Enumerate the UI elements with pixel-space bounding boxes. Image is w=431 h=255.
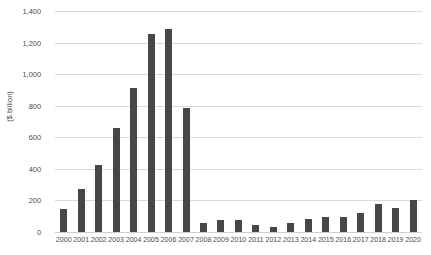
y-tick-label: 1,000 (0, 70, 41, 79)
y-tick-label: 1,200 (0, 39, 41, 48)
bar-slot (317, 11, 334, 232)
x-tick-label: 2010 (230, 236, 247, 244)
gridline (55, 232, 422, 233)
bar-slot (125, 11, 142, 232)
bar (357, 213, 364, 232)
x-tick-label: 2008 (195, 236, 212, 244)
x-tick-label: 2000 (55, 236, 72, 244)
bar (340, 217, 347, 232)
bar-slot (247, 11, 264, 232)
x-tick-label: 2014 (300, 236, 317, 244)
bar-slot (142, 11, 159, 232)
bar-slot (265, 11, 282, 232)
x-tick-label: 2002 (90, 236, 107, 244)
bar (78, 189, 85, 232)
y-tick-label: 400 (0, 165, 41, 174)
bar-slot (72, 11, 89, 232)
bar (200, 223, 207, 232)
bar (410, 200, 417, 232)
x-tick-label: 2016 (335, 236, 352, 244)
y-tick-label: 0 (0, 228, 41, 237)
x-tick-label: 2015 (317, 236, 334, 244)
bar (235, 220, 242, 232)
bar-slot (352, 11, 369, 232)
y-tick-label: 600 (0, 133, 41, 142)
x-tick-label: 2018 (369, 236, 386, 244)
bar (113, 128, 120, 232)
bar (375, 204, 382, 232)
x-tick-label: 2019 (387, 236, 404, 244)
bar-slot (107, 11, 124, 232)
x-tick-label: 2005 (142, 236, 159, 244)
bar-slot (55, 11, 72, 232)
bar (287, 223, 294, 232)
x-tick-label: 2017 (352, 236, 369, 244)
x-tick-label: 2009 (212, 236, 229, 244)
x-tick-label: 2007 (177, 236, 194, 244)
bar (322, 217, 329, 232)
bar-slot (212, 11, 229, 232)
x-tick-label: 2004 (125, 236, 142, 244)
x-tick-label: 2011 (247, 236, 264, 244)
bar (165, 29, 172, 232)
bar-slot (404, 11, 421, 232)
bar (270, 227, 277, 232)
bar (392, 208, 399, 232)
bar-slot (369, 11, 386, 232)
x-tick-label: 2020 (404, 236, 421, 244)
x-tick-label: 2006 (160, 236, 177, 244)
bar-slot (177, 11, 194, 232)
bar-slot (300, 11, 317, 232)
bar-slot (230, 11, 247, 232)
y-tick-label: 800 (0, 102, 41, 111)
x-tick-label: 2003 (107, 236, 124, 244)
x-tick-label: 2012 (265, 236, 282, 244)
bar (95, 165, 102, 232)
bar-slot (282, 11, 299, 232)
bar-slot (160, 11, 177, 232)
bar-slot (335, 11, 352, 232)
y-tick-label: 1,400 (0, 7, 41, 16)
x-axis-labels: 2000200120022003200420052006200720082009… (55, 236, 422, 244)
bar (130, 88, 137, 232)
x-tick-label: 2001 (72, 236, 89, 244)
bar (305, 219, 312, 232)
bar-chart: ($ billion) 1,4001,2001,0008006004002000… (0, 0, 431, 255)
x-tick-label: 2013 (282, 236, 299, 244)
bar (252, 225, 259, 232)
bar-slot (387, 11, 404, 232)
bar (60, 209, 67, 232)
y-tick-label: 200 (0, 196, 41, 205)
bar-slot (90, 11, 107, 232)
bar-slot (195, 11, 212, 232)
bar (183, 108, 190, 232)
bar (148, 34, 155, 232)
bar-series (55, 11, 422, 232)
bar (217, 220, 224, 232)
plot-area: 1,4001,2001,0008006004002000 (55, 11, 422, 232)
